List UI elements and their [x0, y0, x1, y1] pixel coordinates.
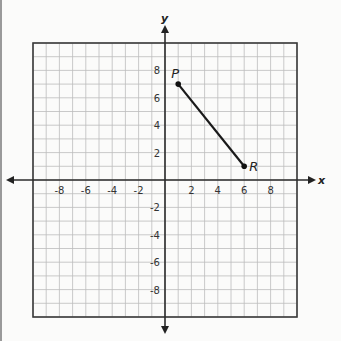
x-tick-label: -6	[81, 185, 91, 196]
x-axis-right-arrow-icon	[308, 176, 316, 184]
y-tick-label: -2	[150, 202, 160, 213]
x-tick-label: -8	[54, 185, 64, 196]
x-axis-left-arrow-icon	[6, 176, 14, 184]
y-tick-label: -6	[150, 257, 160, 268]
y-tick-label: 8	[154, 65, 160, 76]
y-axis-up-arrow-icon	[161, 25, 169, 33]
x-axis-label: x	[317, 174, 326, 187]
y-tick-label: -8	[150, 285, 160, 296]
coordinate-plane: -8-6-4-224688642-2-4-6-8 y x PR	[0, 0, 341, 341]
plotted-points: PR	[171, 66, 258, 174]
x-tick-label: -2	[134, 185, 144, 196]
point-p	[175, 81, 181, 87]
axes	[6, 25, 316, 334]
y-axis-down-arrow-icon	[161, 326, 169, 334]
x-tick-label: 6	[241, 185, 247, 196]
y-tick-label: -4	[150, 230, 160, 241]
y-tick-label: 6	[154, 93, 160, 104]
y-tick-label: 2	[154, 148, 160, 159]
y-tick-label: 4	[154, 120, 160, 131]
x-tick-label: 8	[267, 185, 273, 196]
point-r	[241, 164, 247, 170]
point-label-r: R	[249, 159, 258, 174]
x-tick-label: 2	[188, 185, 194, 196]
x-tick-label: -4	[107, 185, 117, 196]
x-tick-label: 4	[215, 185, 221, 196]
point-label-p: P	[171, 66, 179, 81]
y-axis-label: y	[161, 12, 169, 25]
